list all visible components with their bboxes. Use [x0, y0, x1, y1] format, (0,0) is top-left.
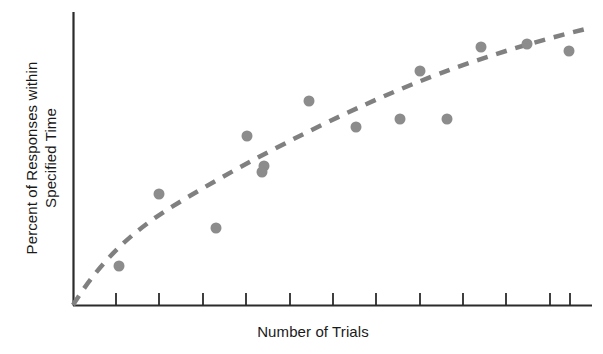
chart-canvas: [0, 0, 603, 354]
data-point: [395, 114, 406, 125]
data-point: [522, 39, 533, 50]
y-axis-title: Percent of Responses within Specified Ti…: [22, 28, 60, 288]
data-point: [564, 46, 575, 57]
data-point: [415, 66, 426, 77]
data-point: [154, 189, 165, 200]
x-axis-ticks: [116, 293, 570, 305]
data-point: [351, 122, 362, 133]
y-axis-title-line-2: Specified Time: [41, 28, 60, 288]
x-axis-title: Number of Trials: [73, 322, 553, 341]
scatter-points: [114, 39, 575, 272]
data-point: [211, 223, 222, 234]
learning-curve-figure: Percent of Responses within Specified Ti…: [0, 0, 603, 354]
data-point: [442, 114, 453, 125]
data-point: [242, 131, 253, 142]
data-point: [257, 167, 268, 178]
fitted-trend-curve: [73, 28, 590, 305]
axis-lines: [73, 12, 592, 306]
data-point: [304, 96, 315, 107]
data-point: [476, 42, 487, 53]
y-axis-title-line-1: Percent of Responses within: [22, 28, 41, 288]
data-point: [114, 261, 125, 272]
